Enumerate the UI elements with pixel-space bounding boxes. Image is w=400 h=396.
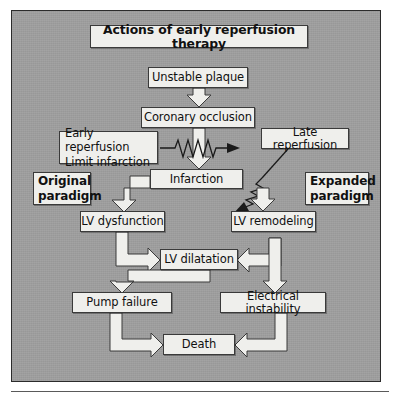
expanded-paradigm-line-1: Expanded bbox=[310, 174, 376, 188]
node-late-reperfusion[interactable]: Late reperfusion bbox=[261, 128, 349, 149]
node-electrical-instability[interactable]: Electrical instability bbox=[220, 292, 326, 313]
figure-container: Actions of early reperfusion therapy Uns… bbox=[0, 0, 400, 396]
node-infarction[interactable]: Infarction bbox=[150, 169, 243, 189]
expanded-paradigm-line-2: paradigm bbox=[310, 189, 374, 203]
early-reperfusion-line-2: Limit infarction bbox=[65, 155, 150, 169]
node-death[interactable]: Death bbox=[163, 334, 235, 355]
node-lv-dysfunction[interactable]: LV dysfunction bbox=[80, 211, 165, 232]
node-lv-remodeling[interactable]: LV remodeling bbox=[231, 211, 316, 232]
node-coronary-occlusion[interactable]: Coronary occlusion bbox=[141, 107, 255, 128]
footer-divider bbox=[11, 391, 389, 392]
original-paradigm-line-2: paradigm bbox=[38, 189, 102, 203]
node-unstable-plaque[interactable]: Unstable plaque bbox=[148, 67, 248, 88]
node-lv-dilatation[interactable]: LV dilatation bbox=[160, 249, 238, 270]
early-reperfusion-line-1: Early reperfusion bbox=[65, 126, 157, 155]
node-early-reperfusion[interactable]: Early reperfusion Limit infarction bbox=[59, 131, 158, 164]
node-pump-failure[interactable]: Pump failure bbox=[72, 292, 172, 313]
label-original-paradigm: Original paradigm bbox=[33, 172, 91, 205]
diagram-title: Actions of early reperfusion therapy bbox=[90, 25, 308, 48]
label-expanded-paradigm: Expanded paradigm bbox=[305, 172, 369, 205]
original-paradigm-line-1: Original bbox=[38, 174, 91, 188]
